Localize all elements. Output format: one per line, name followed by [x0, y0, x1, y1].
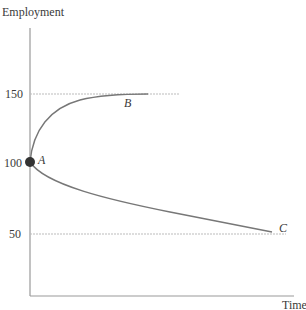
curve-a-to-c: [30, 162, 272, 232]
point-a-marker: [25, 157, 35, 167]
x-axis-label: Time: [282, 298, 306, 310]
chart-canvas: [0, 0, 306, 310]
y-axis-label: Employment: [2, 5, 64, 20]
point-a-label: A: [38, 153, 45, 168]
point-b-label: B: [124, 96, 131, 111]
y-tick-150: 150: [5, 87, 23, 102]
point-c-label: C: [279, 221, 287, 236]
y-tick-100: 100: [4, 156, 22, 171]
y-tick-50: 50: [9, 227, 21, 242]
